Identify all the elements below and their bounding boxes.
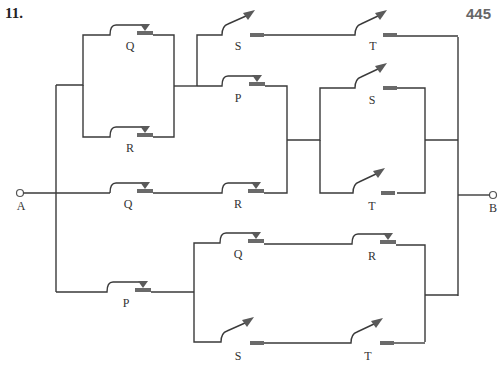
switch-label-low-q: Q	[234, 248, 243, 260]
switch-label-par-s: S	[369, 94, 376, 106]
parallel-s-t-block	[287, 63, 458, 195]
upper-p-branch	[197, 75, 287, 140]
switch-label-low-r: R	[368, 250, 376, 262]
lower-s-t-branch	[194, 292, 458, 345]
switch-label-low-t: T	[364, 350, 371, 362]
switching-circuit-diagram	[0, 0, 504, 370]
lower-q-r-branch	[194, 232, 425, 342]
terminal-b	[458, 192, 497, 199]
switch-label-upper-t: T	[369, 40, 376, 52]
lower-p-branch	[56, 281, 194, 292]
terminal-b-label: B	[489, 202, 497, 214]
terminal-a	[17, 190, 111, 197]
switch-label-block1-q: Q	[126, 40, 135, 52]
switch-label-mid-q: Q	[124, 198, 133, 210]
switch-label-block1-r: R	[126, 142, 134, 154]
middle-q-r-branch	[110, 140, 287, 193]
switch-label-mid-r: R	[234, 198, 242, 210]
switch-label-par-t: T	[368, 200, 375, 212]
switch-label-upper-p: P	[235, 92, 242, 104]
switch-label-low-s: S	[235, 350, 242, 362]
terminal-a-label: A	[17, 200, 26, 212]
switch-label-low-p: P	[123, 297, 130, 309]
switch-label-upper-s: S	[235, 40, 242, 52]
